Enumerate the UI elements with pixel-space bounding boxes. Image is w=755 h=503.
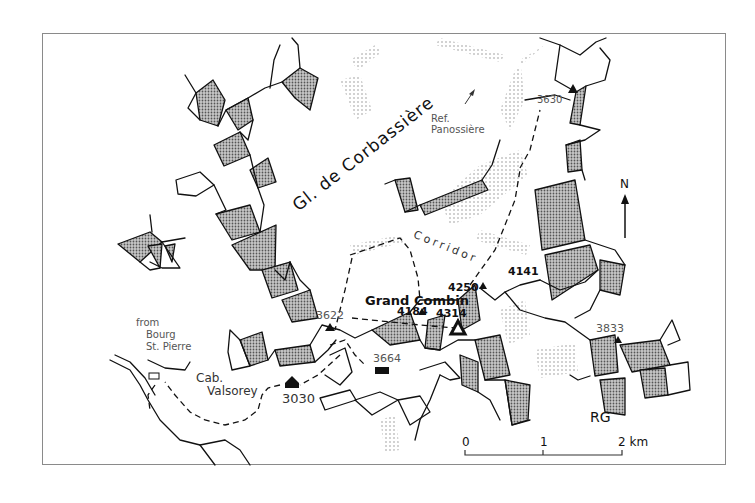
elevation-3622: 3622	[316, 310, 344, 321]
scale-tick-2: 2 km	[618, 436, 648, 448]
from-label-line1: from	[136, 318, 159, 328]
refuge-label-line1: Ref.	[431, 114, 450, 124]
from-label-line2: Bourg	[146, 330, 176, 340]
hut-icon	[149, 373, 159, 379]
elevation-4250: 4250	[448, 282, 479, 293]
scale-bar	[465, 450, 622, 455]
north-arrow-icon	[621, 194, 629, 238]
refuge-label-line2: Panossière	[431, 125, 485, 135]
scale-tick-0: 0	[462, 436, 470, 448]
cabin-valsorey-icon	[285, 376, 299, 388]
cabin-label-line1: Cab.	[196, 372, 223, 384]
refuge-3664-icon	[375, 367, 389, 374]
elevation-3030: 3030	[282, 392, 315, 405]
elevation-3833: 3833	[596, 323, 624, 334]
elevation-4314: 4314	[436, 308, 467, 319]
cabin-label-line2: Valsorey	[207, 385, 258, 397]
scale-tick-1: 1	[540, 436, 548, 448]
summit-triangle-icon	[325, 323, 335, 331]
summit-triangle-icon	[479, 282, 487, 289]
elevation-3630: 3630	[537, 95, 562, 105]
elevation-4184: 4184	[397, 306, 428, 317]
region-label: RG	[590, 410, 611, 424]
from-label-line3: St. Pierre	[146, 342, 191, 352]
elevation-3664: 3664	[373, 353, 401, 364]
refuge-pointer-arrow-icon	[465, 89, 475, 104]
glacier-map	[0, 0, 755, 503]
north-label: N	[620, 178, 629, 190]
elevation-4141: 4141	[508, 266, 539, 277]
